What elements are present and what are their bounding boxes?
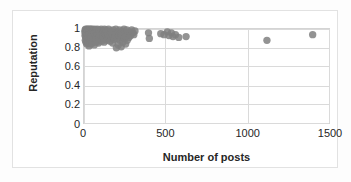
data-point bbox=[131, 27, 138, 34]
x-axis-tick-labels: 050010001500 bbox=[83, 127, 330, 143]
x-axis-tick-label: 1500 bbox=[318, 127, 342, 140]
x-axis-tick-label: 500 bbox=[156, 127, 174, 140]
x-axis-tick-label: 0 bbox=[80, 127, 86, 140]
y-axis-tick-label: 0.2 bbox=[36, 99, 80, 110]
y-axis-tick-labels: 00.20.40.60.81 bbox=[33, 28, 80, 124]
data-point bbox=[263, 37, 270, 44]
y-axis-tick-label: 1 bbox=[36, 23, 80, 34]
data-point bbox=[309, 31, 316, 38]
y-axis-title: Reputation bbox=[27, 15, 39, 111]
data-point bbox=[146, 35, 153, 42]
y-axis-tick-label: 0.6 bbox=[36, 61, 80, 72]
scatter-chart-figure: 00.20.40.60.81 050010001500 Number of po… bbox=[0, 0, 351, 182]
plot-area bbox=[83, 28, 330, 124]
data-point bbox=[175, 34, 182, 41]
plot-svg bbox=[84, 29, 329, 123]
data-point bbox=[182, 33, 189, 40]
x-axis-title: Number of posts bbox=[83, 151, 330, 163]
y-axis-tick-label: 0 bbox=[36, 119, 80, 130]
y-axis-tick-label: 0.4 bbox=[36, 80, 80, 91]
chart-frame: 00.20.40.60.81 050010001500 Number of po… bbox=[12, 10, 338, 168]
y-axis-tick-label: 0.8 bbox=[36, 42, 80, 53]
x-axis-tick-label: 1000 bbox=[235, 127, 259, 140]
